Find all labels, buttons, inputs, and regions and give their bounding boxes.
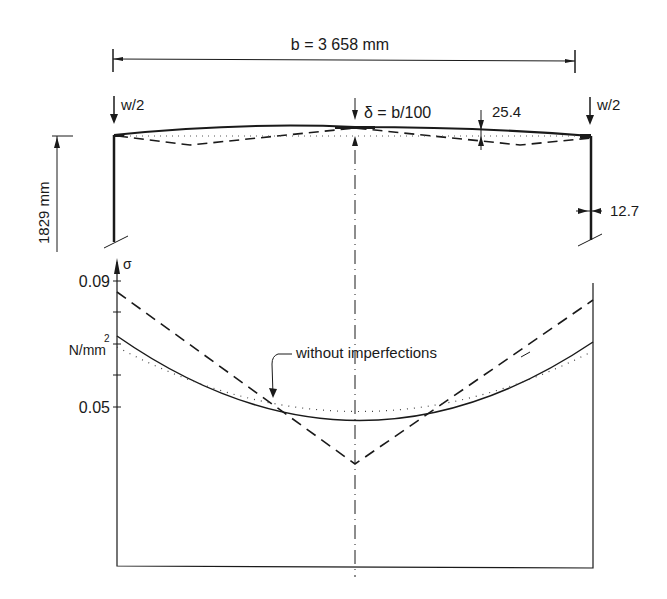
imperfection-dimension: δ = b/100	[352, 98, 431, 146]
height-dimension: 1829 mm	[35, 136, 73, 252]
imperfection-label: δ = b/100	[364, 104, 431, 121]
diagram-canvas: b = 3 658 mm w/2 w/2 δ = b/100	[0, 0, 667, 599]
y-tick-0-09: 0.09	[79, 273, 110, 290]
load-left: w/2	[110, 96, 144, 124]
y-unit-label: N/mm	[69, 342, 106, 358]
width-dimension-label: b = 3 658 mm	[291, 36, 389, 53]
load-left-label: w/2	[120, 96, 144, 113]
annotation-arrow-icon	[269, 388, 277, 398]
y-tick-0-05: 0.05	[79, 399, 110, 416]
y-axis-symbol: σ	[123, 256, 132, 272]
stress-chart: σ 0.09 0.05 N/mm 2 without imperfections	[69, 256, 593, 568]
down-arrow-icon	[110, 114, 118, 124]
web-thickness-dimension: 12.7	[576, 202, 639, 219]
flange-thickness-dimension: 25.4	[478, 103, 521, 150]
width-dimension: b = 3 658 mm	[113, 36, 575, 73]
flange-thickness-label: 25.4	[492, 103, 521, 120]
annotation-label: without imperfections	[295, 344, 437, 361]
down-arrow-icon	[586, 115, 594, 125]
y-unit-exponent: 2	[104, 333, 110, 344]
load-right-label: w/2	[596, 96, 620, 113]
axis-arrow-icon	[114, 258, 120, 274]
web-thickness-label: 12.7	[610, 202, 639, 219]
height-dimension-label: 1829 mm	[35, 181, 52, 244]
load-right: w/2	[586, 96, 620, 125]
